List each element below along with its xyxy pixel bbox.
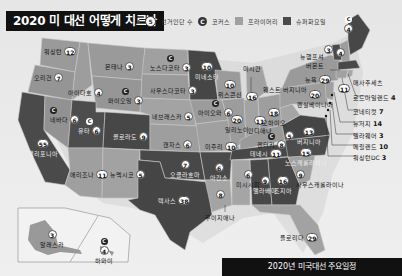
label-texas: 텍사스38 xyxy=(158,196,190,205)
label-new-hampshire-votes: 4 xyxy=(336,48,345,57)
super-tuesday-swatch xyxy=(283,17,291,25)
label-louisiana-votes: 8 xyxy=(216,190,225,199)
label-illinois: 20일리노이 xyxy=(225,115,249,134)
label-north-dakota: C노스다코타3 xyxy=(150,55,191,72)
label-vermont-votes: 3 xyxy=(324,45,333,54)
label-hawaii: C4하와이 xyxy=(95,238,113,265)
label-pennsylvania: 20펜실베이니아 xyxy=(297,90,333,109)
label-utah: C유타6 xyxy=(78,118,101,135)
caucus-icon: C xyxy=(268,133,275,140)
legend: 5 선거인단 수 C 코커스 프라이머리 슈퍼화요일 xyxy=(137,14,326,28)
caucus-icon: C xyxy=(101,238,108,245)
label-kentucky: C켄터키8 xyxy=(257,133,286,149)
caucus-icon: C xyxy=(122,88,129,95)
label-new-york: 뉴욕29 xyxy=(305,75,331,84)
state-massachusetts[interactable] xyxy=(338,60,360,70)
state-colorado[interactable] xyxy=(103,112,150,150)
label-south-dakota: 사우스다코타3 xyxy=(150,86,197,95)
label-michigan-votes: 16 xyxy=(246,92,258,101)
label-oklahoma: 7오클라호마 xyxy=(170,160,200,179)
label-nebraska: 네브래스카5 xyxy=(152,112,193,121)
callout-michigan: 미시간 xyxy=(243,64,261,73)
label-maine: C4 xyxy=(344,16,353,33)
label-georgia: 16조지아 xyxy=(274,176,292,195)
caucus-icon: C xyxy=(167,55,174,62)
label-south-carolina: 9사우스캐롤라이나 xyxy=(296,170,344,189)
legend-super-tuesday: 슈퍼화요일 xyxy=(296,17,326,26)
caucus-icon: C xyxy=(198,17,207,26)
callout-new-jersey: 뉴저지14 xyxy=(353,119,382,128)
label-oregon: 오리건7 xyxy=(34,73,63,82)
label-minnesota: 10미네소타 xyxy=(195,62,219,81)
label-wyoming: C와이오밍3 xyxy=(108,88,143,105)
bullet-icon xyxy=(137,20,140,23)
state-rhode-island[interactable] xyxy=(347,70,353,77)
footer-banner: 2020년 미국대선 주요일정 xyxy=(222,258,402,276)
callout-delaware: 델라웨어3 xyxy=(353,131,384,140)
caucus-icon: C xyxy=(345,16,352,23)
label-florida: 플로리다29 xyxy=(280,233,318,242)
label-new-mexico: 뉴멕시코5 xyxy=(110,170,145,179)
caucus-icon: C xyxy=(50,107,57,114)
label-north-carolina: 15노스캐롤라이나 xyxy=(285,148,327,167)
callout-maryland: 메릴랜드10 xyxy=(353,142,388,151)
callout-massachusetts: 매사추세츠 xyxy=(353,78,383,87)
label-wisconsin: 10위스콘신 xyxy=(218,80,242,99)
label-california: 55캘리포니아 xyxy=(28,139,58,158)
callout-nh-vt: 뉴햄프셔버몬트 xyxy=(300,52,324,70)
label-tennessee: 테네시11 xyxy=(250,149,282,158)
primary-swatch xyxy=(235,17,243,25)
legend-electoral-votes: 선거인단 수 xyxy=(161,17,193,26)
label-idaho: 아이다호4 xyxy=(68,88,103,97)
label-arkansas: 6아칸소 xyxy=(210,163,228,182)
label-kansas: 캔자스6 xyxy=(163,140,192,149)
label-west-virginia-votes: 5 xyxy=(285,131,294,140)
label-nevada: C네바다6 xyxy=(50,107,79,124)
label-massachusetts-votes: 11 xyxy=(338,84,350,93)
electoral-votes-icon: 5 xyxy=(145,16,156,27)
label-colorado: 콜로라도9 xyxy=(113,132,148,141)
caucus-icon: C xyxy=(86,118,93,125)
callout-rhode-island: 로드아일랜드4 xyxy=(353,93,396,102)
caucus-icon: C xyxy=(212,100,219,107)
label-montana: 몬태나3 xyxy=(105,62,134,71)
legend-primary: 프라이머리 xyxy=(248,17,278,26)
label-washington: 워싱턴12 xyxy=(44,47,76,56)
label-missouri: 미주리10 xyxy=(205,142,237,151)
label-alaska: 3알래스카 xyxy=(40,230,64,249)
callout-louisiana: 루이지애나 xyxy=(205,213,235,222)
label-virginia: 13버지니아 xyxy=(297,127,321,146)
label-arizona: 애리조나11 xyxy=(70,170,108,179)
label-ohio: 18오하이오 xyxy=(262,108,286,127)
callout-dc: 워싱턴DC3 xyxy=(353,153,386,162)
state-connecticut[interactable] xyxy=(336,70,348,78)
legend-caucus: 코커스 xyxy=(212,17,230,26)
callout-connecticut: 코네티컷7 xyxy=(353,107,384,116)
